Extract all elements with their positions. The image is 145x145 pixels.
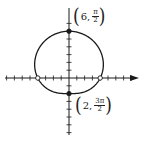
- theta-fraction: π 2: [92, 9, 99, 24]
- filled-point-marker: [67, 91, 71, 95]
- r-value: 6,: [81, 12, 91, 22]
- label-bottom-point: ( 2, 3π 2 ): [75, 97, 112, 114]
- open-paren: (: [75, 95, 82, 116]
- open-paren: (: [73, 6, 80, 27]
- theta-denominator: 2: [96, 106, 102, 113]
- filled-point-marker: [67, 29, 71, 33]
- close-paren: ): [99, 6, 106, 27]
- r-value: 2,: [83, 101, 93, 111]
- theta-fraction: 3π 2: [94, 98, 105, 113]
- close-paren: ): [105, 95, 112, 116]
- open-point-marker: [98, 76, 102, 80]
- theta-denominator: 2: [92, 17, 98, 24]
- label-top-point: ( 6, π 2 ): [73, 8, 105, 25]
- axes: [5, 8, 139, 135]
- open-point-marker: [36, 76, 40, 80]
